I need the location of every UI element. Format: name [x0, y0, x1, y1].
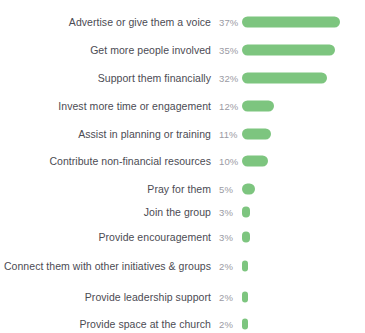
value-label: 37% [211, 17, 242, 28]
bar-track [242, 177, 365, 201]
bar [242, 101, 274, 112]
bar-track [242, 66, 365, 90]
bar-track [242, 312, 365, 333]
bar [242, 129, 271, 140]
category-label: Get more people involved [0, 44, 211, 57]
horizontal-bar-chart: Advertise or give them a voice37%Get mor… [0, 0, 365, 333]
value-label: 11% [211, 129, 242, 140]
bar-row: Provide leadership support2% [0, 285, 365, 309]
category-label: Assist in planning or training [0, 128, 211, 141]
bar-track [242, 38, 365, 62]
bar [242, 156, 268, 167]
bar [242, 319, 248, 330]
category-label: Join the group [0, 206, 211, 219]
bar-track [242, 94, 365, 118]
category-label: Provide encouragement [0, 231, 211, 244]
value-label: 2% [211, 319, 242, 330]
bar-row: Support them financially32% [0, 66, 365, 90]
bar-track [242, 225, 365, 249]
value-label: 5% [211, 184, 242, 195]
bar [242, 261, 248, 272]
bar [242, 73, 327, 84]
value-label: 2% [211, 292, 242, 303]
bar-track [242, 200, 365, 224]
bar-row: Join the group3% [0, 200, 365, 224]
bar-row: Advertise or give them a voice37% [0, 10, 365, 34]
category-label: Contribute non-financial resources [0, 155, 211, 168]
value-label: 3% [211, 232, 242, 243]
value-label: 32% [211, 73, 242, 84]
bar-row: Connect them with other initiatives & gr… [0, 249, 365, 283]
bar-row: Pray for them5% [0, 177, 365, 201]
category-label: Provide space at the church [0, 318, 211, 331]
value-label: 2% [211, 261, 242, 272]
category-label: Support them financially [0, 72, 211, 85]
bar-row: Get more people involved35% [0, 38, 365, 62]
value-label: 10% [211, 156, 242, 167]
bar-row: Invest more time or engagement12% [0, 94, 365, 118]
bar [242, 292, 248, 303]
category-label: Advertise or give them a voice [0, 16, 211, 29]
category-label: Invest more time or engagement [0, 100, 211, 113]
bar-row: Provide encouragement3% [0, 225, 365, 249]
category-label: Connect them with other initiatives & gr… [0, 259, 211, 273]
bar [242, 207, 250, 218]
value-label: 3% [211, 207, 242, 218]
bar-track [242, 285, 365, 309]
value-label: 12% [211, 101, 242, 112]
bar-row: Contribute non-financial resources10% [0, 149, 365, 173]
bar-track [242, 10, 365, 34]
bar-row: Provide space at the church2% [0, 312, 365, 333]
bar-row: Assist in planning or training11% [0, 122, 365, 146]
bar [242, 232, 250, 243]
value-label: 35% [211, 45, 242, 56]
bar [242, 184, 255, 195]
bar-track [242, 122, 365, 146]
bar [242, 45, 335, 56]
category-label: Pray for them [0, 183, 211, 196]
category-label: Provide leadership support [0, 291, 211, 304]
bar-track [242, 254, 365, 278]
bar [242, 17, 340, 28]
bar-track [242, 149, 365, 173]
